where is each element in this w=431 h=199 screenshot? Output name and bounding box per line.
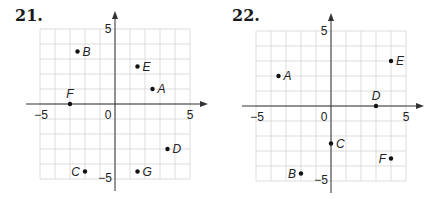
point-label-d: D	[372, 89, 381, 103]
y-axis-arrow-icon	[328, 13, 334, 21]
coordinate-plane-21: −5505−5ABCDEFG	[0, 0, 215, 199]
point-label-c: C	[71, 165, 80, 179]
y-min-label: −5	[98, 171, 112, 185]
point-f	[68, 102, 72, 106]
point-d	[165, 147, 169, 151]
point-b	[299, 171, 303, 175]
point-b	[75, 49, 79, 53]
point-label-a: A	[157, 82, 166, 96]
origin-label: 0	[105, 108, 112, 122]
point-c	[329, 141, 333, 145]
y-max-label: 5	[105, 22, 112, 36]
point-label-e: E	[143, 60, 152, 74]
point-g	[135, 169, 139, 173]
point-label-g: G	[143, 165, 152, 179]
exercise-21-panel: 21. −5505−5ABCDEFG	[0, 0, 215, 199]
point-a	[276, 74, 280, 78]
y-max-label: 5	[321, 24, 328, 38]
point-label-a: A	[283, 69, 292, 83]
x-axis-arrow-icon	[416, 103, 424, 109]
coordinate-plane-22: −5505−5ABCDEF	[215, 0, 431, 199]
exercise-22-panel: 22. −5505−5ABCDEF	[215, 0, 430, 199]
point-a	[150, 87, 154, 91]
point-label-d: D	[173, 142, 182, 156]
point-e	[389, 59, 393, 63]
point-f	[389, 156, 393, 160]
point-label-f: F	[379, 152, 387, 166]
x-axis-arrow-icon	[200, 101, 208, 107]
y-min-label: −5	[314, 173, 328, 187]
x-min-label: −5	[34, 108, 48, 122]
point-e	[135, 64, 139, 68]
x-max-label: 5	[403, 110, 410, 124]
point-c	[83, 169, 87, 173]
x-min-label: −5	[250, 110, 264, 124]
y-axis-arrow-icon	[112, 11, 118, 19]
point-label-c: C	[336, 137, 345, 151]
point-label-f: F	[66, 87, 74, 101]
x-max-label: 5	[187, 108, 194, 122]
point-label-b: B	[83, 45, 91, 59]
point-label-b: B	[288, 167, 296, 181]
point-d	[374, 104, 378, 108]
origin-label: 0	[321, 110, 328, 124]
point-label-e: E	[396, 54, 405, 68]
